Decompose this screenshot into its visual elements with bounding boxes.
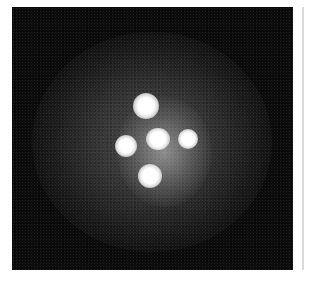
astronomical-image (12, 7, 293, 270)
lensed-image-right (178, 129, 198, 149)
lensed-image-top (133, 93, 159, 119)
lensed-image-bottom (138, 164, 162, 188)
divider-line (302, 7, 304, 270)
lensed-image-left (115, 135, 137, 157)
lensed-image-center (146, 128, 170, 150)
